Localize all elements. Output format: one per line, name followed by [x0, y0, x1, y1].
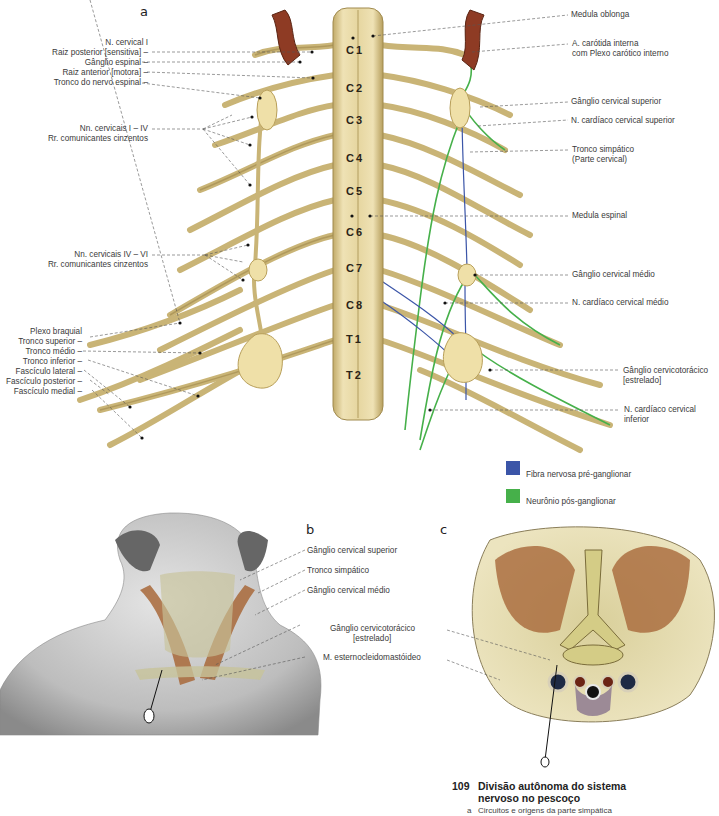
label-plexo-braquial: Plexo braquial	[30, 327, 82, 338]
panel-c-letter: c	[440, 522, 447, 537]
label-rr-comunicantes-2: Rr. comunicantes cinzentos	[48, 260, 148, 271]
label-medula-oblonga: Medula oblonga	[571, 10, 629, 21]
label-estrelado: [estrelado]	[623, 376, 661, 387]
left-nerve-roots	[80, 45, 335, 445]
label-parte-cervical: (Parte cervical)	[572, 155, 627, 166]
right-carotid-artery	[462, 10, 484, 70]
segment-label: C1	[346, 44, 364, 56]
label-inferior: inferior	[624, 415, 649, 426]
label-rr-comunicantes-1: Rr. comunicantes cinzentos	[48, 134, 148, 145]
label-b-ganglio-medio: Gânglio cervical médio	[307, 586, 390, 597]
segment-label: C5	[346, 185, 364, 197]
figure-title-line2: nervoso no pescoço	[478, 792, 580, 804]
figure-number: 109	[452, 780, 470, 792]
legend-swatch-preganglionic	[506, 461, 520, 475]
segment-label: C2	[346, 82, 364, 94]
label-tronco-superior: Tronco superior –	[18, 337, 82, 348]
label-b-tronco-simpatico: Tronco simpático	[307, 566, 369, 577]
label-b-ganglio-cervicotoracico: Gânglio cervicotorácico	[330, 624, 415, 635]
label-n-cardiaco-inferior: N. cardíaco cervical	[624, 405, 696, 416]
label-ganglio-espinal: Gânglio espinal –	[85, 58, 148, 69]
neck-cross-section	[472, 527, 714, 767]
label-nn-cervicais-4-6: Nn. cervicais IV – VI	[74, 250, 148, 261]
label-b-esternocleidomastoideo: M. esternocleidomastóideo	[323, 653, 421, 664]
label-b-estrelado: [estrelado]	[353, 634, 391, 645]
segment-label: T1	[346, 333, 363, 345]
label-tronco-inferior: Tronco inferior –	[23, 357, 82, 368]
label-raiz-posterior: Raiz posterior [sensitiva] –	[52, 48, 148, 59]
label-n-cardiaco-medio: N. cardíaco cervical médio	[572, 298, 668, 309]
label-medula-espinal: Medula espinal	[572, 211, 627, 222]
left-carotid-artery	[272, 10, 300, 65]
segment-label: C4	[346, 152, 364, 164]
label-fasciculo-posterior: Fascículo posterior –	[6, 377, 82, 388]
subcaption-letter: a	[467, 806, 471, 815]
segment-label: C7	[346, 262, 364, 274]
legend-swatch-postganglionic	[506, 489, 520, 503]
label-n-cardiaco-superior: N. cardíaco cervical superior	[571, 116, 675, 127]
panel-a-letter: a	[140, 4, 148, 19]
legend-label-postganglionic: Neurônio pós-ganglionar	[526, 497, 616, 508]
label-a-carotida-interna: A. carótida interna	[572, 39, 638, 50]
subcaption-text: Circuitos e origens da parte simpática	[478, 806, 612, 815]
label-ganglio-cervical-medio: Gânglio cervical médio	[572, 270, 655, 281]
label-plexo-carotico: com Plexo carótico interno	[572, 49, 668, 60]
neck-illustration	[0, 513, 321, 735]
label-tronco-simpatico: Tronco simpático	[572, 145, 634, 156]
segment-label: T2	[346, 369, 363, 381]
label-tronco-medio: Tronco médio –	[25, 347, 82, 358]
label-n-cervical-1: N. cervical I	[105, 38, 148, 49]
segment-label: C6	[346, 226, 364, 238]
label-raiz-anterior: Raiz anterior [motora] –	[62, 68, 148, 79]
figure-title-line1: Divisão autônoma do sistema	[478, 780, 626, 792]
label-fasciculo-lateral: Fascículo lateral –	[16, 367, 82, 378]
label-tronco-nervo-espinal: Tronco do nervo espinal –	[54, 78, 148, 89]
segment-label: C8	[346, 299, 364, 311]
label-b-ganglio-superior: Gânglio cervical superior	[307, 546, 397, 557]
label-ganglio-cervicotoracico: Gânglio cervicotorácico	[623, 366, 708, 377]
segment-label: C3	[346, 114, 364, 126]
legend-label-preganglionic: Fibra nervosa pré-ganglionar	[526, 470, 631, 481]
label-nn-cervicais-1-4: Nn. cervicais I – IV	[80, 124, 148, 135]
label-ganglio-cervical-superior: Gânglio cervical superior	[571, 97, 661, 108]
panel-b-letter: b	[306, 522, 314, 537]
label-fasciculo-medial: Fascículo medial –	[14, 387, 82, 398]
